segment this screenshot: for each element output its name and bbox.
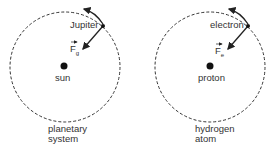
orbiting-body-label: electron [210, 20, 244, 30]
caption-line2: atom [195, 134, 216, 144]
force-label: Fg [70, 44, 79, 58]
sun-dot [61, 63, 68, 70]
electron-dot [246, 24, 250, 28]
orbiting-body-label: Jupiter [70, 20, 99, 30]
caption-line2: system [48, 134, 78, 144]
proton-dot [207, 63, 214, 70]
jupiter-dot [101, 24, 105, 28]
center-body-label: proton [198, 73, 225, 83]
center-body-label: sun [55, 73, 70, 83]
force-label: Fe [215, 46, 224, 60]
